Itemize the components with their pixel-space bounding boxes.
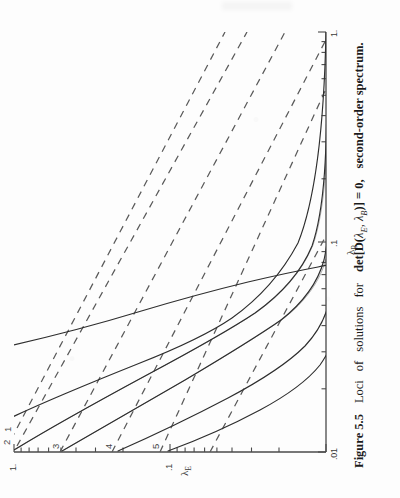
curve-label-5: 5 (150, 444, 161, 449)
y-axis-label-sub: E (184, 466, 193, 471)
figure-caption: Figure 5.5Lociofsolutionsfordet[D(λE, λB… (352, 18, 369, 468)
curve-label-2: 2 (1, 440, 12, 445)
solid-locus-f (0, 263, 338, 348)
plot-canvas (0, 0, 400, 498)
dashed-loci (5, 32, 400, 452)
caption-figure-number: Figure 5.5 (352, 414, 366, 468)
caption-lambda-e-sub: E (359, 227, 369, 232)
solid-locus-c (62, 168, 330, 451)
dashed-curve-2 (5, 32, 225, 451)
y-tick-label-2: 1. (8, 464, 18, 471)
caption-expr-prefix: det[D( (352, 238, 366, 272)
caption-lambda-e: λ (352, 233, 366, 238)
curve-label-3: 3 (50, 444, 61, 449)
caption-lambda-b: λ (352, 216, 366, 221)
solid-locus-a (0, 32, 326, 423)
solid-locus-e (168, 294, 340, 451)
rotated-figure-container: .01 .1 1. .1 1. λB λE 1 2 3 4 5 Figure 5… (0, 0, 400, 498)
figure-5-5: .01 .1 1. .1 1. λB λE 1 2 3 4 5 Figure 5… (0, 0, 400, 498)
curve-label-4: 4 (103, 444, 114, 449)
caption-tail: second-order spectrum. (352, 42, 366, 168)
x-tick-label-2: 1. (329, 30, 339, 37)
caption-word-loci: Loci (352, 380, 366, 403)
x-tick-label-1: .1 (329, 240, 339, 247)
x-axis-ticks (318, 32, 326, 452)
dashed-curve-6 (210, 98, 400, 452)
caption-lambda-b-sub: B (359, 210, 369, 215)
dashed-curve-4 (112, 32, 330, 452)
solid-locus-b (14, 78, 327, 450)
y-axis-label: λE (178, 466, 193, 476)
caption-expr-comma: , (352, 221, 366, 227)
scanned-page: .01 .1 1. .1 1. λB λE 1 2 3 4 5 Figure 5… (0, 0, 400, 498)
caption-word-of: of (352, 361, 366, 371)
caption-expr-suffix: )] = 0, (352, 179, 366, 210)
dashed-curve-1 (17, 32, 247, 446)
curve-label-1: 1 (2, 427, 13, 432)
solid-loci (0, 32, 340, 451)
y-axis-label-text: λ (178, 471, 190, 476)
caption-word-solutions: solutions (352, 307, 366, 352)
x-tick-label-0: .01 (329, 448, 339, 460)
dashed-curve-3 (60, 32, 285, 452)
caption-word-for: for (352, 283, 366, 298)
y-tick-label-1: .1 (164, 464, 174, 471)
